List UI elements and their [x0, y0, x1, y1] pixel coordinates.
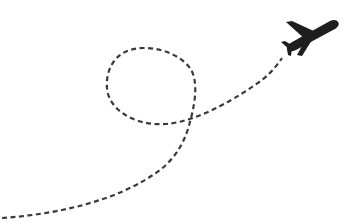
illustration-svg [0, 0, 359, 223]
flight-path-illustration [0, 0, 359, 223]
airplane-icon [281, 20, 339, 56]
dashed-flight-path [2, 48, 282, 218]
